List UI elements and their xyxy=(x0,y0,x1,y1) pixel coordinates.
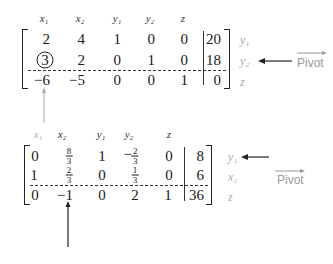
cell: 0 xyxy=(98,168,106,183)
fraction-cell: 83 xyxy=(66,147,73,166)
cell: 0 xyxy=(165,168,173,183)
row-label-z: z xyxy=(240,75,245,90)
rhs-cell: 20 xyxy=(206,32,221,47)
left-bracket xyxy=(22,29,28,89)
denominator: 3 xyxy=(67,176,72,185)
augment-divider xyxy=(203,31,204,85)
cell: 0 xyxy=(98,188,106,203)
row-label-y2: y₂ xyxy=(240,54,250,69)
row-label-y1: y₁ xyxy=(240,33,250,48)
header-y1: y₁ xyxy=(97,128,106,140)
pivot-element: 3 xyxy=(37,52,54,69)
header-y2: y₂ xyxy=(146,12,155,24)
cell: 0 xyxy=(165,149,173,164)
header-x2: x₂ xyxy=(76,12,85,24)
header-y2: y₂ xyxy=(125,128,134,140)
header-z: z xyxy=(167,128,171,140)
header-y1: y₁ xyxy=(113,12,122,24)
entering-column-arrow-icon xyxy=(64,201,72,247)
cell: 0 xyxy=(114,53,122,68)
cell: 1 xyxy=(114,32,122,47)
rhs-cell: 18 xyxy=(206,53,221,68)
pivot-label: Pivot xyxy=(277,173,304,187)
augment-divider xyxy=(184,147,185,201)
left-bracket xyxy=(24,145,30,205)
rhs-cell: 6 xyxy=(197,168,205,183)
row-label-y1: y₁ xyxy=(228,150,238,165)
pivot-circle: 3 xyxy=(37,52,54,69)
departing-row-arrow-icon xyxy=(258,56,294,66)
rhs-cell: 36 xyxy=(189,188,204,203)
cell: 2 xyxy=(78,53,86,68)
right-bracket xyxy=(206,145,212,205)
cell: 1 xyxy=(164,188,172,203)
row-label-z: z xyxy=(228,190,233,205)
cell: 0 xyxy=(148,32,156,47)
entering-column-arrow-icon xyxy=(40,87,48,123)
cell: 0 xyxy=(31,149,39,164)
cell: 4 xyxy=(78,32,86,47)
cell: 1 xyxy=(30,168,38,183)
rhs-cell: 0 xyxy=(214,73,222,88)
cell: 2 xyxy=(131,188,139,203)
objective-divider xyxy=(28,70,226,71)
cell: 0 xyxy=(181,32,189,47)
pivot-label: Pivot xyxy=(297,56,324,70)
departing-row-arrow-icon xyxy=(241,152,271,162)
minus-sign: − xyxy=(124,146,132,162)
header-z: z xyxy=(181,12,185,24)
header-x1: x₁ xyxy=(34,128,43,140)
cell: 0 xyxy=(148,73,156,88)
rhs-cell: 8 xyxy=(197,149,205,164)
header-x2: x₂ xyxy=(58,128,67,140)
cell: 1 xyxy=(98,149,106,164)
fraction-cell: −23 xyxy=(124,147,139,166)
cell: 0 xyxy=(181,53,189,68)
cell: −5 xyxy=(69,73,85,88)
fraction-cell: 23 xyxy=(66,166,73,185)
cell: 0 xyxy=(31,188,39,203)
cell: 2 xyxy=(43,32,51,47)
header-x1: x₁ xyxy=(40,12,49,24)
cell: −6 xyxy=(34,73,50,88)
fraction-cell: 13 xyxy=(132,166,139,185)
denominator: 3 xyxy=(133,176,138,185)
cell: 0 xyxy=(114,73,122,88)
cell: 1 xyxy=(148,53,156,68)
right-bracket xyxy=(224,29,230,89)
cell: 1 xyxy=(181,73,189,88)
row-label-x1: x₁ xyxy=(228,170,238,185)
